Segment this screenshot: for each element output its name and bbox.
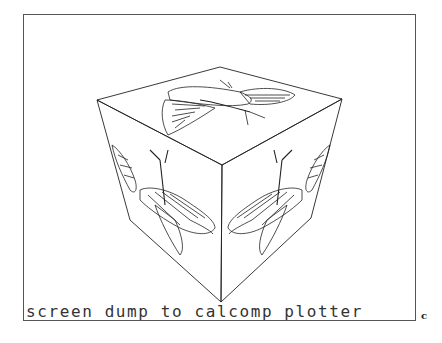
butterfly-right	[228, 145, 330, 255]
caption-text: screen dump to calcomp plotter	[26, 302, 363, 321]
figure-label: c	[421, 310, 427, 321]
cube-left-face	[97, 100, 222, 302]
cube-right-face	[221, 99, 342, 302]
butterfly-top	[162, 80, 295, 135]
butterfly-left	[112, 145, 215, 255]
cube-top-face	[97, 67, 342, 165]
cube-drawing	[0, 0, 442, 343]
